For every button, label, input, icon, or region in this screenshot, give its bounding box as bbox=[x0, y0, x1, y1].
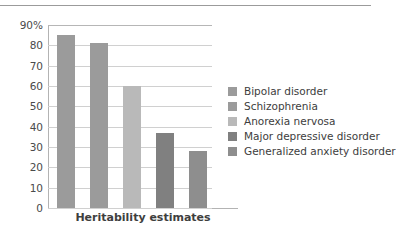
legend-item-label: Anorexia nervosa bbox=[244, 116, 336, 127]
legend-item: Generalized anxiety disorder bbox=[228, 144, 371, 159]
top-divider-rule bbox=[0, 5, 371, 6]
legend-item-label: Schizophrenia bbox=[244, 101, 318, 112]
bar bbox=[57, 35, 75, 208]
legend-swatch-icon bbox=[228, 117, 237, 126]
bar-chart-figure: 90%80706050403020100 Heritability estima… bbox=[0, 8, 371, 226]
bar bbox=[156, 133, 174, 208]
legend-item-label: Major depressive disorder bbox=[244, 131, 380, 142]
legend-swatch-icon bbox=[228, 147, 237, 156]
bar bbox=[123, 86, 141, 208]
y-axis-tick-label: 60 bbox=[0, 81, 48, 92]
y-axis-tick-label: 80 bbox=[0, 40, 48, 51]
gridline bbox=[48, 25, 212, 26]
legend-swatch-icon bbox=[228, 102, 237, 111]
y-axis-tick-label: 90% bbox=[0, 20, 48, 31]
legend-item-label: Generalized anxiety disorder bbox=[244, 146, 396, 157]
y-axis-tick-label: 30 bbox=[0, 142, 48, 153]
y-axis-tick-label: 40 bbox=[0, 122, 48, 133]
bar bbox=[189, 151, 207, 208]
gridline bbox=[48, 208, 212, 209]
legend-swatch-icon bbox=[228, 132, 237, 141]
y-axis-tick-label: 0 bbox=[0, 203, 48, 214]
y-axis-tick-label: 10 bbox=[0, 183, 48, 194]
y-axis-tick-label: 70 bbox=[0, 61, 48, 72]
x-axis-label: Heritability estimates bbox=[48, 211, 238, 224]
plot-area: 90%80706050403020100 bbox=[48, 25, 212, 208]
bar bbox=[90, 43, 108, 208]
y-axis-tick-label: 20 bbox=[0, 162, 48, 173]
legend-item: Major depressive disorder bbox=[228, 129, 371, 144]
y-axis-tick-label: 50 bbox=[0, 101, 48, 112]
chart-legend: Bipolar disorderSchizophreniaAnorexia ne… bbox=[228, 84, 371, 159]
legend-item-label: Bipolar disorder bbox=[244, 86, 327, 97]
legend-swatch-icon bbox=[228, 87, 237, 96]
legend-item: Anorexia nervosa bbox=[228, 114, 371, 129]
legend-item: Schizophrenia bbox=[228, 99, 371, 114]
legend-item: Bipolar disorder bbox=[228, 84, 371, 99]
